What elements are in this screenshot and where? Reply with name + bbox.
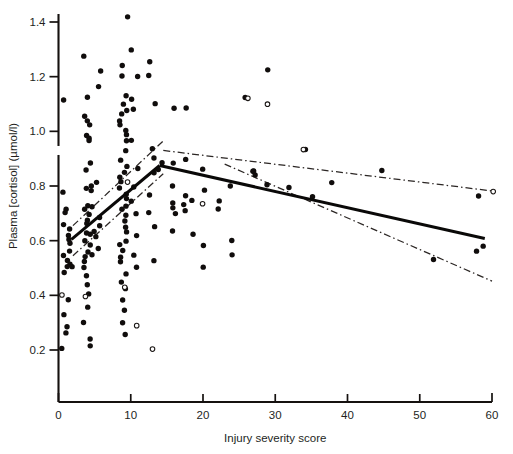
data-point (61, 222, 66, 227)
data-point (123, 93, 128, 98)
data-point (96, 246, 101, 251)
data-point (152, 224, 157, 229)
x-axis-title: Injury severity score (224, 432, 326, 444)
data-point (202, 187, 207, 192)
data-point (117, 185, 122, 190)
data-point (147, 192, 152, 197)
data-point (120, 248, 125, 253)
data-point (82, 114, 87, 119)
data-point (62, 210, 67, 215)
data-point (67, 226, 72, 231)
regression-low-iss (72, 166, 160, 240)
data-point (66, 297, 71, 302)
data-point-open (301, 147, 306, 152)
data-point (123, 148, 128, 153)
data-point (67, 241, 72, 246)
data-point (81, 320, 86, 325)
data-point (59, 346, 64, 351)
data-point (182, 208, 187, 213)
data-point (121, 101, 126, 106)
x-axis-tick-label: 10 (124, 409, 137, 421)
data-point (134, 265, 139, 270)
data-point (131, 252, 136, 257)
data-point (122, 308, 127, 313)
data-point (119, 207, 124, 212)
data-point (118, 179, 123, 184)
data-point (122, 218, 127, 223)
data-point (82, 238, 87, 243)
data-point (117, 122, 122, 127)
data-points-group (59, 14, 495, 351)
ci-upper-high-iss (163, 150, 492, 190)
data-point-open (134, 323, 139, 328)
data-point (119, 279, 124, 284)
data-point (201, 243, 206, 248)
data-point (129, 198, 134, 203)
data-point (123, 213, 128, 218)
data-point (229, 252, 234, 257)
data-point (134, 233, 139, 238)
data-point-open (83, 294, 88, 299)
data-point (86, 212, 91, 217)
data-point (476, 193, 481, 198)
data-point (85, 304, 90, 309)
data-point (124, 229, 129, 234)
data-point (118, 259, 123, 264)
data-point (61, 312, 66, 317)
data-point (286, 185, 291, 190)
data-point (88, 242, 93, 247)
y-axis-tick-label: 0.4 (30, 289, 47, 301)
data-point (64, 324, 69, 329)
data-point (91, 229, 96, 234)
data-point (123, 332, 128, 337)
data-point (63, 330, 68, 335)
data-point (147, 59, 152, 64)
data-point (129, 138, 134, 143)
data-point (87, 122, 92, 127)
x-axis-tick-label: 0 (55, 409, 61, 421)
data-point (124, 132, 129, 137)
data-point (81, 53, 86, 58)
data-point (61, 253, 66, 258)
scatter-plot: 01020304050600.20.40.60.81.01.21.4Injury… (0, 0, 513, 454)
data-point (264, 182, 269, 187)
data-point (97, 223, 102, 228)
data-point (96, 84, 101, 89)
data-point (379, 168, 384, 173)
data-point-open (60, 293, 65, 298)
data-point (170, 205, 175, 210)
data-point (170, 200, 175, 205)
data-point (82, 207, 87, 212)
data-point (190, 232, 195, 237)
x-axis-tick-label: 60 (486, 409, 499, 421)
data-point (480, 243, 485, 248)
data-point (82, 259, 87, 264)
data-point (85, 282, 90, 287)
data-point (81, 265, 86, 270)
data-point (216, 206, 221, 211)
data-point (183, 105, 188, 110)
data-point (82, 254, 87, 259)
data-point (474, 248, 479, 253)
data-point (431, 257, 436, 262)
data-point-open (246, 96, 251, 101)
data-point (229, 238, 234, 243)
data-point-open (491, 189, 496, 194)
y-axis-tick-label: 1.0 (30, 125, 46, 137)
data-point (119, 73, 124, 78)
data-point (117, 242, 122, 247)
data-point (133, 211, 138, 216)
data-point-open (122, 285, 127, 290)
data-point (89, 188, 94, 193)
data-point (252, 172, 257, 177)
data-point (124, 108, 129, 113)
data-point-open (265, 102, 270, 107)
data-point (123, 238, 128, 243)
data-point (152, 101, 157, 106)
data-point (94, 180, 99, 185)
data-point (85, 95, 90, 100)
data-point (123, 271, 128, 276)
data-point (98, 68, 103, 73)
data-point (88, 343, 93, 348)
data-point (183, 193, 188, 198)
